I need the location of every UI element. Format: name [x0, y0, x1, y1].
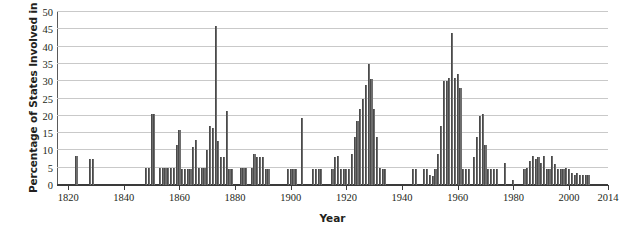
x-tick-mark — [291, 185, 292, 190]
x-tick-mark — [346, 185, 347, 190]
bar — [496, 169, 498, 185]
plot-area: 05101520253035404550 1820184018601880190… — [57, 12, 608, 185]
x-tick-mark — [235, 185, 236, 190]
x-tick-label: 1980 — [503, 192, 524, 203]
gridline — [57, 63, 608, 64]
x-tick-label: 1820 — [58, 192, 79, 203]
x-tick-label: 2014 — [598, 192, 619, 203]
bar — [75, 156, 77, 185]
bar — [384, 169, 386, 185]
y-tick-label: 0 — [48, 180, 53, 191]
gridline — [57, 115, 608, 116]
bar — [231, 169, 233, 185]
x-axis-title: Year — [57, 212, 608, 224]
x-tick-label: 1940 — [392, 192, 413, 203]
y-tick-label: 35 — [43, 58, 54, 69]
bar — [320, 169, 322, 185]
bar — [415, 169, 417, 185]
y-axis-line — [57, 12, 58, 185]
x-tick-mark — [402, 185, 403, 190]
x-tick-label: 1900 — [280, 192, 301, 203]
x-tick-label: 2000 — [559, 192, 580, 203]
y-tick-label: 45 — [43, 24, 54, 35]
x-tick-mark — [68, 185, 69, 190]
bar — [295, 169, 297, 185]
y-tick-label: 40 — [43, 41, 54, 52]
x-tick-mark — [608, 185, 609, 190]
x-tick-mark — [124, 185, 125, 190]
x-tick-mark — [179, 185, 180, 190]
x-tick-mark — [513, 185, 514, 190]
y-tick-label: 50 — [43, 7, 54, 18]
chart-figure: Percentage of States Involved in War 051… — [0, 0, 626, 239]
gridline — [57, 46, 608, 47]
x-tick-label: 1860 — [169, 192, 190, 203]
bar — [587, 175, 589, 185]
gridline — [57, 98, 608, 99]
y-tick-label: 20 — [43, 110, 54, 121]
gridline — [57, 80, 608, 81]
gridline — [57, 11, 608, 12]
y-tick-label: 30 — [43, 76, 54, 87]
x-tick-label: 1920 — [336, 192, 357, 203]
bar — [468, 169, 470, 185]
bar — [504, 163, 506, 185]
bar — [267, 169, 269, 185]
bar — [92, 159, 94, 185]
bar — [245, 168, 247, 185]
y-tick-label: 25 — [43, 93, 54, 104]
gridline — [57, 28, 608, 29]
y-tick-label: 5 — [48, 162, 53, 173]
gridline — [57, 149, 608, 150]
y-tick-label: 15 — [43, 128, 54, 139]
x-tick-mark — [458, 185, 459, 190]
y-tick-label: 10 — [43, 145, 54, 156]
y-axis-title: Percentage of States Involved in War — [27, 3, 43, 193]
gridline — [57, 132, 608, 133]
x-tick-label: 1880 — [225, 192, 246, 203]
x-tick-label: 1840 — [113, 192, 134, 203]
bar — [153, 114, 155, 185]
bar — [301, 118, 303, 185]
x-tick-mark — [569, 185, 570, 190]
x-tick-label: 1960 — [447, 192, 468, 203]
